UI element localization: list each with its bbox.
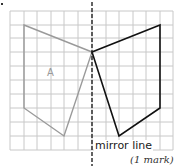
marks-label: (1 mark) bbox=[130, 154, 174, 165]
mirror-line-label: mirror line bbox=[94, 140, 153, 152]
shape-a-label: A bbox=[47, 67, 54, 78]
grid-diagram bbox=[0, 0, 182, 168]
